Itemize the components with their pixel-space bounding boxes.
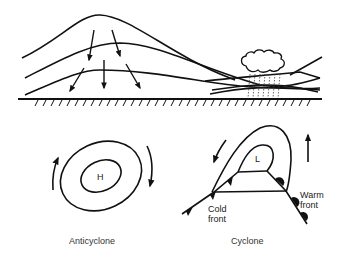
counterclockwise-arrow-left: [214, 140, 226, 162]
cloud-icon: [242, 50, 285, 72]
cyclone-diagram: [182, 126, 308, 224]
clockwise-arrow-right: [147, 146, 152, 186]
warm-front-label: Warm front: [300, 190, 324, 210]
airflow-curve-top: [22, 15, 235, 80]
weather-systems-diagram: [0, 0, 342, 262]
warm-sector-line-bottom: [214, 191, 286, 192]
cyclone-caption: Cyclone: [231, 236, 264, 246]
anticyclone-caption: Anticyclone: [69, 236, 115, 246]
high-pressure-label: H: [97, 172, 104, 182]
ascending-line: [290, 57, 322, 75]
low-pressure-label: L: [255, 154, 260, 164]
hatched-ground: [18, 99, 322, 106]
cold-front-label: Cold front: [208, 204, 227, 224]
clockwise-arrow-left: [53, 158, 58, 190]
descending-air-arrows: [70, 30, 140, 91]
warm-sector-line-top: [238, 171, 267, 172]
